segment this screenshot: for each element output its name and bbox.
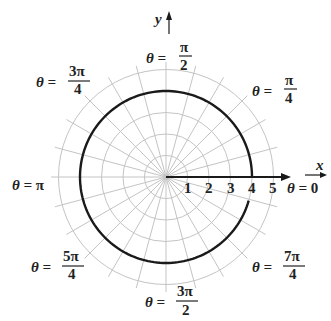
svg-text:θ =: θ = <box>36 74 56 90</box>
angle-label-3pi-over-2: θ = 3π 2 <box>145 283 198 318</box>
svg-text:θ =: θ = <box>31 259 51 275</box>
svg-text:π: π <box>285 72 294 88</box>
svg-text:5π: 5π <box>63 248 80 264</box>
radial-ticks: 1 2 3 4 5 <box>184 180 277 196</box>
y-axis-label: y <box>153 11 162 27</box>
grid-spoke <box>85 177 166 258</box>
svg-text:θ =: θ = <box>252 259 272 275</box>
svg-text:3π: 3π <box>177 283 194 299</box>
angle-label-pi-over-2: θ = π 2 <box>146 39 192 73</box>
svg-text:2: 2 <box>182 302 190 318</box>
angle-label-3pi-over-4: θ = 3π 4 <box>36 63 90 97</box>
angle-label-0: θ = 0 <box>287 180 318 196</box>
grid-spoke <box>166 66 196 177</box>
angle-label-5pi-over-4: θ = 5π 4 <box>31 248 84 282</box>
grid-spoke <box>166 147 277 177</box>
grid-spoke <box>55 147 166 177</box>
y-axis-arrow-icon <box>166 11 172 20</box>
svg-text:7π: 7π <box>284 248 301 264</box>
grid-spoke <box>55 177 166 207</box>
angle-label-pi-over-4: θ = π 4 <box>252 72 297 106</box>
grid-spoke <box>136 177 166 288</box>
svg-text:θ =: θ = <box>146 50 166 66</box>
x-axis-label: x <box>315 157 324 173</box>
svg-text:3π: 3π <box>69 63 86 79</box>
tick-4: 4 <box>248 180 256 196</box>
angle-label-7pi-over-4: θ = 7π 4 <box>252 248 305 282</box>
tick-1: 1 <box>184 180 192 196</box>
tick-5: 5 <box>269 180 277 196</box>
svg-text:θ =: θ = <box>252 83 272 99</box>
svg-text:π: π <box>180 39 189 55</box>
tick-2: 2 <box>205 180 213 196</box>
polar-graph: y x 1 2 3 4 5 θ = 0 θ = π 2 θ = π 4 <box>0 0 331 321</box>
x-label-arrow-icon <box>320 172 327 178</box>
svg-text:4: 4 <box>285 90 293 106</box>
grid-spoke <box>166 96 247 177</box>
grid-spoke <box>166 177 277 207</box>
grid-spoke <box>85 96 166 177</box>
svg-text:θ =: θ = <box>145 294 165 310</box>
grid-spoke <box>136 66 166 177</box>
tick-3: 3 <box>227 180 235 196</box>
svg-text:4: 4 <box>289 266 297 282</box>
angle-label-pi: θ = π <box>12 177 45 193</box>
svg-text:4: 4 <box>74 81 82 97</box>
svg-text:θ = 0: θ = 0 <box>287 180 318 196</box>
svg-text:4: 4 <box>68 266 76 282</box>
svg-text:θ = π: θ = π <box>12 177 45 193</box>
svg-text:2: 2 <box>180 57 188 73</box>
